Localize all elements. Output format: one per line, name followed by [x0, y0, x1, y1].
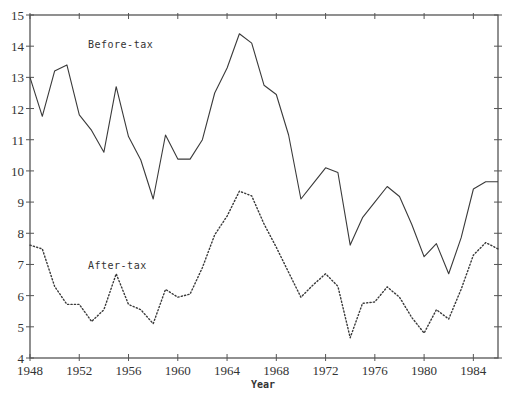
- y-tick-label: 9: [18, 195, 25, 210]
- y-tick-label: 6: [18, 289, 25, 304]
- y-tick-label: 8: [18, 226, 25, 241]
- x-tick-label: 1984: [460, 363, 487, 378]
- y-tick-label: 10: [11, 164, 24, 179]
- x-axis-title: Year: [251, 379, 275, 390]
- y-tick-label: 12: [11, 102, 24, 117]
- series-lines: [30, 34, 498, 338]
- y-tick-label: 15: [11, 8, 24, 23]
- y-tick-label: 5: [18, 320, 25, 335]
- plot-frame: [30, 15, 498, 358]
- y-tick-label: 11: [11, 133, 24, 148]
- x-tick-label: 1956: [116, 363, 143, 378]
- x-tick-label: 1972: [313, 363, 339, 378]
- x-tick-label: 1980: [411, 363, 437, 378]
- y-tick-label: 14: [11, 39, 25, 54]
- x-tick-label: 1952: [66, 363, 92, 378]
- x-tick-label: 1976: [362, 363, 389, 378]
- x-tick-label: 1948: [17, 363, 43, 378]
- line-chart: 456789101112131415 194819521956196019641…: [0, 0, 513, 396]
- x-tick-label: 1968: [263, 363, 289, 378]
- plot-border: [30, 15, 498, 358]
- after-tax-label: After-tax: [88, 260, 147, 271]
- x-tick-label: 1960: [165, 363, 191, 378]
- before-tax-label: Before-tax: [88, 39, 153, 50]
- x-tick-label: 1964: [214, 363, 241, 378]
- before-tax-line: [30, 34, 498, 274]
- y-tick-label: 7: [18, 257, 25, 272]
- y-tick-label: 13: [11, 70, 24, 85]
